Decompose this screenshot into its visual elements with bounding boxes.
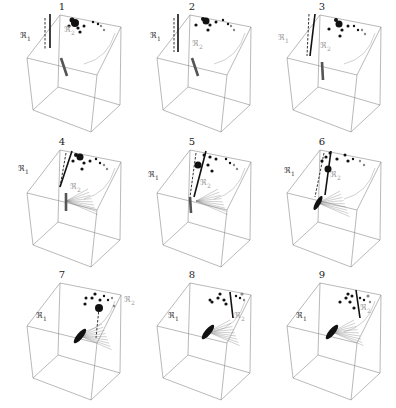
region-symbol: ℜ — [200, 178, 207, 187]
data-point-gray — [359, 160, 361, 162]
trajectory-fan — [208, 320, 240, 346]
region-symbol: ℜ — [360, 303, 367, 312]
cube-plot — [130, 0, 262, 136]
data-point — [327, 27, 330, 30]
cube-panel-5: 5ℜ1ℜ2 — [130, 135, 262, 271]
region-subscript: 1 — [27, 35, 31, 42]
cube-edges — [157, 283, 251, 400]
data-point — [215, 158, 218, 161]
data-point — [71, 159, 74, 162]
region-symbol: ℜ — [234, 311, 241, 320]
cube-panel-8: 8ℜ1ℜ2 — [130, 268, 262, 404]
data-point — [92, 21, 94, 23]
data-point — [99, 299, 102, 302]
data-point — [82, 161, 85, 164]
region-symbol: ℜ — [70, 182, 77, 191]
region-symbol: ℜ — [36, 311, 43, 320]
cube-panel-1: 1ℜ1ℜ2 — [0, 0, 132, 136]
data-point-gray — [361, 29, 363, 31]
region-symbol: ℜ — [192, 39, 199, 48]
region-subscript: 2 — [367, 307, 371, 314]
cube-panel-3: 3ℜ1ℜ2 — [260, 0, 392, 136]
data-point — [89, 160, 92, 163]
data-point — [351, 295, 354, 298]
cube-plot — [260, 135, 392, 271]
region-subscript: 1 — [157, 35, 161, 42]
region-label-r1: ℜ1 — [148, 171, 159, 182]
region-label-r2: ℜ2 — [200, 179, 211, 190]
cube-panel-7: 7ℜ1ℜ2 — [0, 268, 132, 404]
data-point — [209, 299, 212, 302]
region-symbol: ℜ — [296, 311, 303, 320]
cube-panel-6: 6ℜ1ℜ2 — [260, 135, 392, 271]
cube-edges — [287, 283, 381, 400]
region-subscript: 2 — [199, 43, 203, 50]
data-point — [347, 25, 350, 28]
data-point — [338, 34, 341, 37]
cube-plot — [260, 0, 392, 136]
data-point-gray — [369, 301, 371, 303]
data-point — [208, 23, 211, 26]
cube-plot — [0, 135, 132, 271]
data-point — [95, 304, 103, 312]
region-subscript: 1 — [303, 315, 307, 322]
cube-edges — [27, 150, 121, 267]
data-point — [224, 302, 227, 305]
region-label-r1: ℜ1 — [150, 32, 161, 43]
data-point — [357, 29, 359, 31]
figure-grid: 1ℜ1ℜ22ℜ1ℜ23ℜ1ℜ24ℜ1ℜ25ℜ1ℜ26ℜ1ℜ27ℜ1ℜ28ℜ1ℜ2… — [0, 0, 396, 408]
region-subscript: 2 — [77, 186, 81, 193]
trajectory-fan — [332, 320, 364, 346]
data-point — [346, 159, 349, 162]
region-label-r2: ℜ2 — [64, 26, 75, 37]
data-point — [352, 306, 355, 309]
region-symbol: ℜ — [278, 33, 285, 42]
region-symbol: ℜ — [18, 164, 25, 173]
data-point — [239, 297, 241, 299]
data-point — [329, 152, 332, 155]
data-point-gray — [364, 33, 366, 35]
data-point — [99, 162, 101, 164]
data-point-gray — [243, 299, 245, 301]
region-subscript: 2 — [71, 29, 75, 36]
data-point-gray — [111, 297, 113, 299]
region-subscript: 1 — [155, 174, 159, 181]
data-point — [93, 292, 96, 295]
region-symbol: ℜ — [330, 170, 337, 179]
panel-number: 9 — [312, 270, 332, 280]
cube-plot — [0, 268, 132, 404]
data-point — [103, 295, 105, 297]
data-point — [320, 159, 323, 162]
region-label-r2: ℜ2 — [330, 171, 341, 182]
region-label-r1: ℜ1 — [278, 34, 289, 45]
data-point — [206, 163, 209, 166]
region-label-r1: ℜ1 — [20, 32, 31, 43]
region-symbol: ℜ — [168, 311, 175, 320]
data-point — [348, 300, 351, 303]
region-subscript: 1 — [285, 37, 289, 44]
solid-boundary-line — [310, 14, 315, 56]
region-label-r1: ℜ1 — [36, 312, 47, 323]
cube-edges — [157, 15, 251, 132]
data-point-gray — [103, 29, 105, 31]
cube-plot — [130, 135, 262, 271]
panel-number: 4 — [52, 137, 72, 147]
data-point — [78, 30, 81, 33]
data-point — [206, 28, 209, 31]
region-symbol: ℜ — [320, 41, 327, 50]
data-point — [80, 167, 83, 170]
region-subscript: 2 — [327, 45, 331, 52]
data-point-gray — [366, 294, 369, 297]
data-point — [344, 154, 347, 157]
data-point — [97, 23, 99, 25]
region-subscript: 1 — [43, 315, 47, 322]
data-point — [215, 21, 218, 24]
region-label-r2: ℜ2 — [70, 183, 81, 194]
data-point — [218, 292, 221, 295]
region-subscript: 2 — [241, 315, 245, 322]
region-subscript: 1 — [25, 168, 29, 175]
data-point — [324, 155, 327, 158]
region-subscript: 2 — [207, 182, 211, 189]
cube-plot — [260, 268, 392, 404]
panel-number: 7 — [52, 270, 72, 280]
